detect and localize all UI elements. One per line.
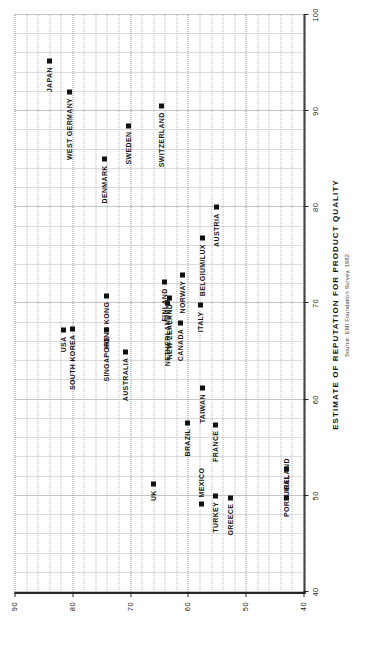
data-point[interactable] xyxy=(198,303,203,308)
data-point-label: TURKEY xyxy=(212,502,219,533)
gridline-vertical xyxy=(14,322,303,323)
gridline-horizontal xyxy=(60,15,61,592)
y-axis-tick-label: 50 xyxy=(241,602,250,611)
gridline-vertical xyxy=(14,533,303,534)
data-point[interactable] xyxy=(101,157,106,162)
gridline-vertical xyxy=(14,283,303,284)
gridline-horizontal xyxy=(234,15,235,592)
data-point-label: DENMARK xyxy=(100,165,107,203)
scatter-chart-figure: 405060708090100405060708090JAPANWEST GER… xyxy=(0,0,379,646)
data-point[interactable] xyxy=(159,104,164,109)
y-axis-tick-label: 80 xyxy=(67,602,76,611)
data-point[interactable] xyxy=(227,495,232,500)
gridline-vertical xyxy=(14,456,303,457)
gridline-horizontal xyxy=(83,15,84,592)
data-point-label: NORWAY xyxy=(178,281,185,314)
y-axis-tick-label: 60 xyxy=(183,602,192,611)
data-point-label: TAIWAN xyxy=(198,394,205,423)
y-axis-tick xyxy=(72,592,73,597)
data-point-label: AUSTRIA xyxy=(213,213,220,247)
data-point[interactable] xyxy=(166,295,171,300)
data-point[interactable] xyxy=(164,301,169,306)
data-point[interactable] xyxy=(61,328,66,333)
gridline-horizontal xyxy=(153,15,154,592)
gridline-vertical xyxy=(14,399,303,400)
data-point[interactable] xyxy=(213,422,218,427)
gridline-horizontal xyxy=(95,15,96,592)
data-point[interactable] xyxy=(104,328,109,333)
gridline-vertical xyxy=(14,553,303,554)
data-point[interactable] xyxy=(178,320,183,325)
data-point[interactable] xyxy=(46,59,51,64)
gridline-vertical xyxy=(14,495,303,496)
x-axis-tick xyxy=(303,110,308,111)
gridline-vertical xyxy=(14,33,303,34)
gridline-vertical xyxy=(14,437,303,438)
data-point[interactable] xyxy=(199,236,204,241)
data-point[interactable] xyxy=(185,420,190,425)
y-axis-tick xyxy=(130,592,131,597)
data-point[interactable] xyxy=(162,280,167,285)
data-point[interactable] xyxy=(66,89,71,94)
data-point[interactable] xyxy=(283,495,288,500)
gridline-vertical xyxy=(14,418,303,419)
y-axis-tick xyxy=(14,592,15,597)
y-axis-tick xyxy=(303,592,304,597)
gridline-horizontal xyxy=(291,15,292,592)
x-axis-tick-label: 50 xyxy=(310,491,319,500)
gridline-horizontal xyxy=(37,15,38,592)
data-point-label: NETHERLANDS xyxy=(163,310,170,367)
gridline-horizontal xyxy=(26,15,27,592)
data-point[interactable] xyxy=(126,123,131,128)
data-point[interactable] xyxy=(122,349,127,354)
gridline-vertical xyxy=(14,591,303,592)
data-point-label: IRELAND xyxy=(282,458,289,492)
gridline-vertical xyxy=(14,514,303,515)
gridline-vertical xyxy=(14,168,303,169)
gridline-horizontal xyxy=(14,15,15,592)
data-point-label: USA xyxy=(60,336,67,352)
source-note: Source: EMI Foundation Survey, 1982. xyxy=(343,15,349,594)
data-point[interactable] xyxy=(214,205,219,210)
gridline-vertical xyxy=(14,91,303,92)
gridline-vertical xyxy=(14,14,303,15)
gridline-vertical xyxy=(14,110,303,111)
gridline-horizontal xyxy=(222,15,223,592)
x-axis-tick-label: 70 xyxy=(310,299,319,308)
data-point-label: BRAZIL xyxy=(184,429,191,457)
gridline-horizontal xyxy=(280,15,281,592)
data-point[interactable] xyxy=(199,501,204,506)
data-point[interactable] xyxy=(179,272,184,277)
y-axis-tick-label: 70 xyxy=(125,602,134,611)
gridline-horizontal xyxy=(49,15,50,592)
x-axis-tick xyxy=(303,495,308,496)
data-point-label: SWITZERLAND xyxy=(158,112,165,167)
y-axis-tick-label: 90 xyxy=(10,602,19,611)
data-point[interactable] xyxy=(104,293,109,298)
gridline-vertical xyxy=(14,476,303,477)
gridline-vertical xyxy=(14,341,303,342)
data-point-label: BELGIUM/LUX xyxy=(198,244,205,296)
data-point[interactable] xyxy=(69,326,74,331)
gridline-vertical xyxy=(14,572,303,573)
data-point-label: SWEDEN xyxy=(125,132,132,165)
x-axis-tick-label: 60 xyxy=(310,395,319,404)
data-point[interactable] xyxy=(150,482,155,487)
gridline-vertical xyxy=(14,379,303,380)
y-axis-tick xyxy=(245,592,246,597)
gridline-horizontal xyxy=(245,15,246,592)
gridline-horizontal xyxy=(187,15,188,592)
gridline-horizontal xyxy=(257,15,258,592)
gridline-vertical xyxy=(14,264,303,265)
x-axis-title: ESTIMATE OF REPUTATION FOR PRODUCT QUALI… xyxy=(330,15,339,594)
gridline-horizontal xyxy=(130,15,131,592)
data-point[interactable] xyxy=(199,386,204,391)
gridline-vertical xyxy=(14,206,303,207)
plot-area: 405060708090100405060708090JAPANWEST GER… xyxy=(14,15,305,594)
gridline-horizontal xyxy=(268,15,269,592)
gridline-vertical xyxy=(14,303,303,304)
data-point[interactable] xyxy=(213,493,218,498)
x-axis-tick xyxy=(303,206,308,207)
gridline-vertical xyxy=(14,245,303,246)
y-axis-tick-label: 40 xyxy=(299,602,308,611)
